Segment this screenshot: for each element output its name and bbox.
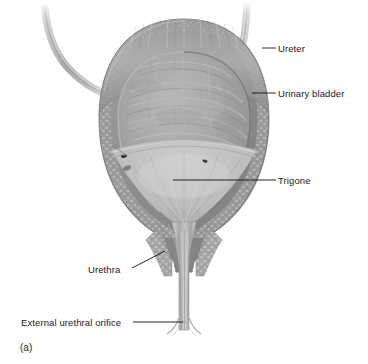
label-urinary-bladder: Urinary bladder [278,89,344,99]
label-urethra: Urethra [88,265,120,275]
bladder-illustration [0,0,368,364]
label-ureter: Ureter [278,44,305,54]
anatomical-figure: Ureter Urinary bladder Trigone Urethra E… [0,0,368,364]
urethra [146,222,222,336]
ureter-left [30,0,101,92]
label-external-urethral-orifice: External urethral orifice [21,318,121,328]
label-trigone: Trigone [278,176,311,186]
figure-caption: (a) [20,342,32,353]
